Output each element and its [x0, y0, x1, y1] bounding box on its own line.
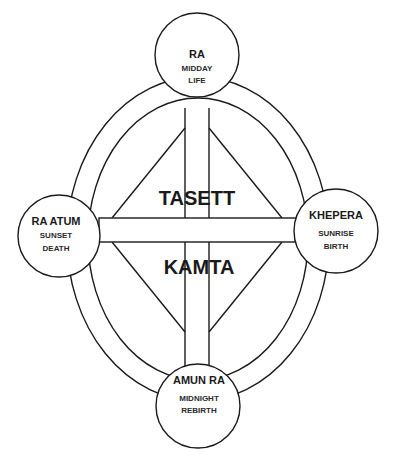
sun-cycle-diagram: TASETT KAMTA RA MIDDAY LIFE RA ATUM SUNS… [0, 0, 396, 459]
node-line: SUNRISE [318, 229, 354, 238]
node-line: BIRTH [324, 242, 349, 251]
node-name: RA [189, 48, 205, 60]
node-line: DEATH [43, 244, 70, 253]
node-name: AMUN RA [173, 374, 225, 386]
node-line: SUNSET [40, 231, 73, 240]
node-line: MIDNIGHT [179, 394, 219, 403]
node-line: MIDDAY [182, 64, 213, 73]
node-name: KHEPERA [309, 209, 363, 221]
node-line: REBIRTH [181, 406, 217, 415]
node-line: LIFE [188, 76, 206, 85]
center-label-upper: TASETT [159, 187, 235, 209]
horizontal-bar [99, 218, 297, 242]
node-name: RA ATUM [31, 215, 80, 227]
center-label-lower: KAMTA [164, 256, 235, 278]
